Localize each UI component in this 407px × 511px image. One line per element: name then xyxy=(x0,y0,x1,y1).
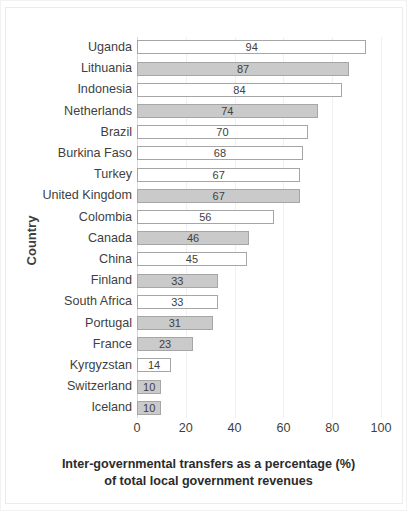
bar-row: 23 xyxy=(137,334,381,355)
bar-value-label: 94 xyxy=(137,40,366,54)
category-label: South Africa xyxy=(12,291,132,312)
bar-value-label: 67 xyxy=(137,168,300,182)
x-tick-label: 20 xyxy=(179,421,193,435)
bar-value-label: 33 xyxy=(137,295,218,309)
bar-value-label: 46 xyxy=(137,231,249,245)
x-axis-tick-labels: 020406080100 xyxy=(137,421,381,441)
category-label: Portugal xyxy=(12,313,132,334)
bar-row: 67 xyxy=(137,164,381,185)
bar-value-label: 87 xyxy=(137,62,349,76)
bar-row: 74 xyxy=(137,101,381,122)
bar-row: 87 xyxy=(137,58,381,79)
bar-row: 70 xyxy=(137,122,381,143)
bar-value-label: 56 xyxy=(137,210,274,224)
category-label: Finland xyxy=(12,270,132,291)
x-axis-title-line2: of total local government revenues xyxy=(21,473,396,490)
bar-row: 56 xyxy=(137,207,381,228)
x-tick-label: 60 xyxy=(276,421,290,435)
category-label: Iceland xyxy=(12,397,132,418)
y-axis-tick-labels: UgandaLithuaniaIndonesiaNetherlandsBrazi… xyxy=(9,37,132,418)
bar-value-label: 45 xyxy=(137,252,247,266)
category-label: France xyxy=(12,334,132,355)
category-label: United Kingdom xyxy=(12,185,132,206)
x-axis-title-line1: Inter-governmental transfers as a percen… xyxy=(21,456,396,473)
category-label: Canada xyxy=(12,228,132,249)
category-label: Indonesia xyxy=(12,79,132,100)
bar-row: 10 xyxy=(137,376,381,397)
category-label: Colombia xyxy=(12,207,132,228)
category-label: Turkey xyxy=(12,164,132,185)
bar-row: 45 xyxy=(137,249,381,270)
bar-value-label: 68 xyxy=(137,146,303,160)
plot-area: 948784747068676756464533333123141010 xyxy=(137,37,381,418)
x-tick-label: 40 xyxy=(228,421,242,435)
bar-row: 67 xyxy=(137,185,381,206)
bar-row: 84 xyxy=(137,79,381,100)
bar-value-label: 31 xyxy=(137,316,213,330)
bar-row: 94 xyxy=(137,37,381,58)
bar-value-label: 10 xyxy=(137,401,161,415)
category-label: Switzerland xyxy=(12,376,132,397)
bar-row: 14 xyxy=(137,355,381,376)
gridline xyxy=(381,37,382,418)
bar-value-label: 67 xyxy=(137,189,300,203)
bar-row: 46 xyxy=(137,228,381,249)
x-axis-title: Inter-governmental transfers as a percen… xyxy=(21,456,396,490)
chart-figure: Country UgandaLithuaniaIndonesiaNetherla… xyxy=(0,0,407,511)
x-tick-label: 100 xyxy=(370,421,391,435)
bar-value-label: 10 xyxy=(137,380,161,394)
bar-row: 33 xyxy=(137,270,381,291)
category-label: Netherlands xyxy=(12,101,132,122)
x-tick-label: 0 xyxy=(133,421,140,435)
bar-row: 68 xyxy=(137,143,381,164)
category-label: Brazil xyxy=(12,122,132,143)
category-label: Burkina Faso xyxy=(12,143,132,164)
bar-value-label: 74 xyxy=(137,104,318,118)
category-label: China xyxy=(12,249,132,270)
bar-value-label: 33 xyxy=(137,274,218,288)
bar-value-label: 23 xyxy=(137,337,193,351)
bar-value-label: 14 xyxy=(137,358,171,372)
category-label: Lithuania xyxy=(12,58,132,79)
bar-row: 31 xyxy=(137,313,381,334)
bar-value-label: 70 xyxy=(137,125,308,139)
category-label: Kyrgyzstan xyxy=(12,355,132,376)
bar-value-label: 84 xyxy=(137,83,342,97)
x-tick-label: 80 xyxy=(325,421,339,435)
category-label: Uganda xyxy=(12,37,132,58)
bar-row: 10 xyxy=(137,397,381,418)
bar-row: 33 xyxy=(137,291,381,312)
